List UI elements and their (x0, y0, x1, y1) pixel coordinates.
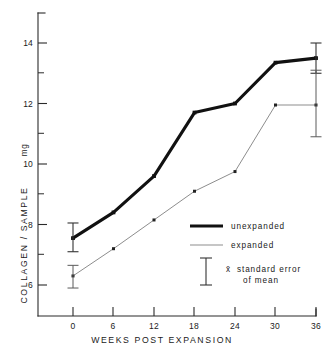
legend-label-of-mean: of mean (243, 276, 279, 285)
legend-marker-error-bar (200, 258, 212, 285)
y-tick-label-12: 12 (23, 99, 33, 109)
data-point (112, 247, 115, 250)
y-tick-label-14: 14 (23, 38, 33, 48)
legend-label-standard-error: standard error (237, 265, 301, 274)
series-markers-unexpanded (71, 56, 318, 240)
legend-label-unexpanded: unexpanded (231, 222, 285, 231)
y-tick-marks-major (38, 43, 47, 285)
y-tick-label-10: 10 (23, 159, 33, 169)
x-tick-label-30: 30 (270, 321, 280, 331)
x-tick-label-12: 12 (149, 321, 159, 331)
data-point (274, 61, 278, 65)
error-bars-group (68, 43, 322, 288)
y-axis-title: COLLAGEN / SAMPLE (19, 186, 29, 303)
data-point (274, 104, 277, 107)
data-point (234, 170, 237, 173)
data-point (193, 111, 197, 115)
series-line-unexpanded (73, 58, 316, 238)
line-chart: 14 12 10 8 6 mg COLLAGEN / SAMPLE 0 6 12… (0, 0, 330, 352)
x-tick-labels: 0 6 12 18 24 30 36 (71, 321, 321, 331)
data-point (152, 174, 156, 178)
error-bar (68, 265, 79, 288)
x-tick-label-36: 36 (311, 321, 321, 331)
x-tick-label-0: 0 (71, 321, 76, 331)
data-point (193, 190, 196, 193)
legend-label-expanded: expanded (231, 241, 274, 250)
series-markers-expanded (72, 104, 318, 278)
y-axis-unit-label: mg (20, 144, 29, 157)
x-tick-marks (73, 307, 316, 316)
x-tick-label-6: 6 (111, 321, 116, 331)
data-point (112, 211, 116, 215)
error-bar (311, 70, 322, 137)
chart-container: 14 12 10 8 6 mg COLLAGEN / SAMPLE 0 6 12… (0, 0, 330, 352)
data-point (153, 218, 156, 221)
x-tick-label-18: 18 (189, 321, 199, 331)
legend: unexpanded expanded x̄ standard error of… (190, 222, 301, 285)
x-tick-label-24: 24 (230, 321, 240, 331)
legend-mean-symbol: x̄ (226, 265, 230, 274)
x-axis-title: WEEKS POST EXPANSION (91, 335, 233, 345)
data-point (233, 102, 237, 106)
